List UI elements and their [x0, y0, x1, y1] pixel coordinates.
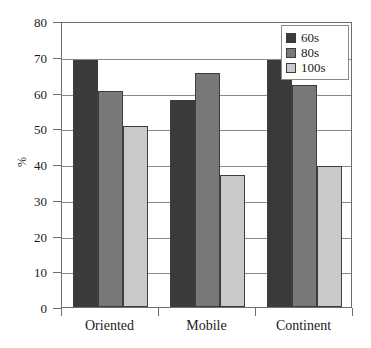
x-axis-tick-mark: [158, 308, 159, 316]
chart-legend: 60s80s100s: [281, 25, 349, 80]
y-axis-tick-mark: [53, 165, 61, 166]
legend-item-100s: 100s: [286, 60, 343, 75]
y-axis-tick-label: 20: [34, 231, 47, 244]
y-axis-tick-label: 60: [34, 88, 47, 101]
bar-mobile-60s: [170, 100, 195, 307]
y-axis-tick-mark: [53, 272, 61, 273]
y-axis-tick-mark: [53, 308, 61, 309]
y-axis-tick-mark: [53, 22, 61, 23]
y-axis-tick-mark: [53, 129, 61, 130]
bar-continent-100s: [317, 166, 342, 307]
bar-oriented-100s: [123, 126, 148, 307]
bar-mobile-80s: [195, 73, 220, 307]
bar-mobile-100s: [220, 175, 245, 307]
y-axis-tick-mark: [53, 237, 61, 238]
bar-oriented-60s: [73, 60, 98, 307]
y-axis-tick-label: 80: [34, 16, 47, 29]
y-axis-tick-label: 30: [34, 195, 47, 208]
legend-item-60s: 60s: [286, 30, 343, 45]
legend-swatch-icon: [286, 48, 296, 58]
y-axis-tick-mark: [53, 58, 61, 59]
bar-oriented-80s: [98, 91, 123, 307]
y-axis-tick-mark: [53, 94, 61, 95]
bar-chart-figure: % 01020304050607080 OrientedMobileContin…: [0, 0, 371, 348]
x-axis-tick-labels: OrientedMobileContinent: [61, 316, 352, 342]
y-axis-tick-label: 70: [34, 52, 47, 65]
y-axis-tick-label: 50: [34, 123, 47, 136]
legend-label: 60s: [301, 31, 319, 44]
y-axis-tick-label: 0: [41, 302, 48, 315]
bar-continent-60s: [267, 60, 292, 307]
y-axis-tick-label: 40: [34, 159, 47, 172]
x-axis-tick-label-continent: Continent: [255, 316, 352, 336]
legend-item-80s: 80s: [286, 45, 343, 60]
x-axis-tick-mark: [61, 308, 62, 316]
y-axis-tick-labels: 01020304050607080: [0, 0, 61, 348]
legend-label: 100s: [301, 61, 326, 74]
x-axis-tick-mark: [352, 308, 353, 316]
y-axis-tick-mark: [53, 201, 61, 202]
x-axis-tick-mark: [255, 308, 256, 316]
legend-swatch-icon: [286, 63, 296, 73]
x-axis-tick-label-oriented: Oriented: [61, 316, 158, 336]
y-axis-tick-label: 10: [34, 266, 47, 279]
bar-continent-80s: [292, 85, 317, 307]
legend-label: 80s: [301, 46, 319, 59]
x-axis-tick-label-mobile: Mobile: [158, 316, 255, 336]
legend-swatch-icon: [286, 33, 296, 43]
